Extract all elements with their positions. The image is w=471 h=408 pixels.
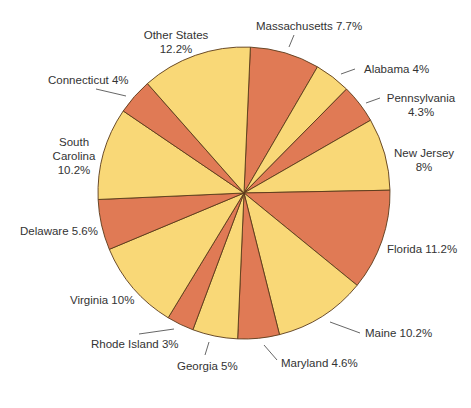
label-other-states-name: Other States	[136, 28, 216, 42]
label-florida: Florida 11.2%	[387, 242, 457, 256]
label-pennsylvania: Pennsylvania 4.3%	[386, 91, 456, 119]
leader-connecticut	[96, 89, 126, 96]
label-other-states-value: 12.2%	[136, 42, 216, 56]
label-pennsylvania-value: 4.3%	[386, 105, 456, 119]
label-maryland: Maryland 4.6%	[281, 356, 358, 370]
leader-pennsylvania	[366, 98, 380, 103]
label-other-states: Other States 12.2%	[136, 28, 216, 56]
label-alabama: Alabama 4%	[364, 62, 429, 76]
label-rhode-island: Rhode Island 3%	[91, 337, 179, 351]
label-virginia: Virginia 10%	[70, 293, 134, 307]
label-maine: Maine 10.2%	[365, 326, 432, 340]
label-connecticut: Connecticut 4%	[48, 73, 129, 87]
leader-massachusetts	[289, 35, 294, 47]
label-south-carolina-value: 10.2%	[44, 163, 104, 177]
label-south-carolina-line2: Carolina	[44, 149, 104, 163]
label-pennsylvania-name: Pennsylvania	[386, 91, 456, 105]
label-delaware: Delaware 5.6%	[20, 224, 98, 238]
label-new-jersey-value: 8%	[393, 160, 455, 174]
leader-maine	[330, 322, 360, 333]
label-massachusetts: Massachusetts 7.7%	[256, 19, 362, 33]
label-new-jersey: New Jersey 8%	[393, 146, 455, 174]
label-south-carolina-line1: South	[44, 135, 104, 149]
label-new-jersey-name: New Jersey	[393, 146, 455, 160]
pie-slices	[98, 47, 390, 339]
leader-rhode-island	[139, 329, 174, 334]
label-georgia: Georgia 5%	[177, 359, 238, 373]
leader-georgia	[205, 342, 209, 355]
label-south-carolina: South Carolina 10.2%	[44, 135, 104, 177]
leader-alabama	[341, 69, 355, 74]
leader-maryland	[264, 345, 277, 360]
